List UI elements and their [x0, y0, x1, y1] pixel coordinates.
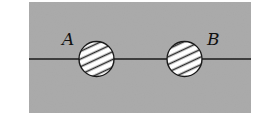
diagram-canvas	[0, 0, 267, 120]
point-b	[167, 42, 202, 77]
shaded-region	[29, 2, 251, 113]
diagram: A B	[0, 0, 267, 120]
hatched-circle-b	[167, 42, 202, 77]
point-a	[79, 42, 114, 77]
hatched-circle-a	[79, 42, 114, 77]
label-b: B	[207, 31, 220, 48]
label-a: A	[62, 31, 74, 48]
